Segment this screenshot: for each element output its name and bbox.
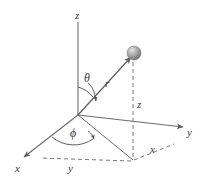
phi-leader <box>88 131 94 139</box>
x-component-label: x <box>150 144 155 155</box>
y-component-label: y <box>68 163 73 174</box>
y-component-dashed-line <box>40 158 131 161</box>
height-component-label: z <box>137 99 141 110</box>
theta-arc <box>78 87 93 97</box>
radius-label: r <box>105 78 109 89</box>
x-axis-label: x <box>15 163 20 174</box>
particle-sphere <box>127 46 141 60</box>
theta-label: θ <box>84 72 90 84</box>
theta-leader <box>88 83 96 101</box>
y-axis <box>78 115 183 127</box>
y-axis-label: y <box>187 127 192 138</box>
z-axis-label: z <box>75 10 79 21</box>
phi-label: ϕ <box>70 127 76 139</box>
xy-projection-line <box>78 115 133 160</box>
spherical-coordinates-figure: z y x r θ ϕ z y x <box>0 0 205 184</box>
diagram-canvas <box>0 0 205 184</box>
